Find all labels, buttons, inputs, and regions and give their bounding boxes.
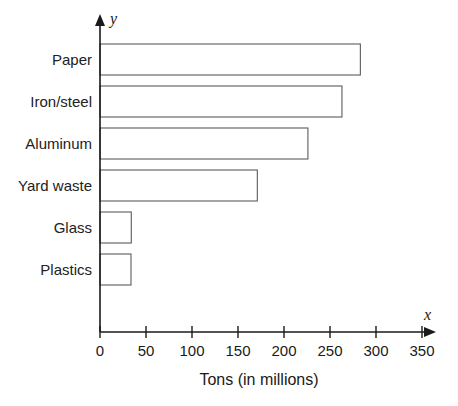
bar-glass — [100, 212, 131, 243]
tick-label-0: 0 — [96, 342, 104, 359]
x-axis — [100, 327, 436, 337]
category-label-plastics: Plastics — [40, 261, 92, 278]
bar-plastics — [100, 254, 131, 285]
y-axis-arrowhead — [95, 14, 105, 26]
tick-label-300: 300 — [363, 342, 388, 359]
bar-chart-figure: Paper Iron/steel Aluminum Yard waste Gla… — [0, 0, 458, 406]
category-label-yard-waste: Yard waste — [18, 177, 92, 194]
bar-yard-waste — [100, 170, 257, 201]
tick-label-100: 100 — [179, 342, 204, 359]
x-axis-letter: x — [423, 306, 431, 323]
x-axis-arrowhead — [424, 327, 436, 337]
bar-aluminum — [100, 128, 308, 159]
x-tick-labels: 0 50 100 150 200 250 300 350 — [96, 342, 435, 359]
tick-label-350: 350 — [409, 342, 434, 359]
category-label-glass: Glass — [54, 219, 92, 236]
bars-group — [100, 44, 360, 285]
category-labels: Paper Iron/steel Aluminum Yard waste Gla… — [18, 51, 92, 278]
category-label-iron-steel: Iron/steel — [30, 93, 92, 110]
bar-paper — [100, 44, 360, 75]
category-label-aluminum: Aluminum — [25, 135, 92, 152]
x-axis-title: Tons (in millions) — [199, 371, 318, 388]
tick-label-200: 200 — [271, 342, 296, 359]
tick-label-150: 150 — [225, 342, 250, 359]
category-label-paper: Paper — [52, 51, 92, 68]
tick-label-250: 250 — [317, 342, 342, 359]
bar-iron-steel — [100, 86, 342, 117]
chart-canvas: Paper Iron/steel Aluminum Yard waste Gla… — [0, 0, 458, 406]
y-axis-letter: y — [108, 10, 118, 28]
tick-label-50: 50 — [138, 342, 155, 359]
